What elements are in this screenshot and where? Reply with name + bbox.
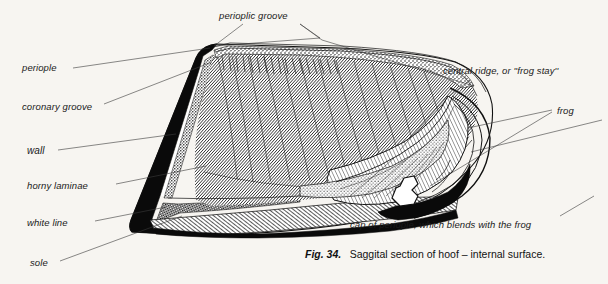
label-frog: frog [557, 105, 574, 116]
hoof-sagittal-section-figure: perioplic groove periople coronary groov… [0, 0, 608, 284]
label-perioplic-groove: perioplic groove [218, 10, 288, 21]
label-horny-laminae: horny laminae [27, 180, 88, 191]
label-sole: sole [30, 257, 48, 268]
label-white-line: white line [27, 217, 68, 228]
label-central-ridge: central ridge, or ''frog stay'' [443, 65, 560, 76]
label-cap-of-periople: cap of periople, which blends with the f… [350, 219, 532, 230]
label-periople: periople [21, 62, 57, 73]
caption-figure-number: Fig. 34. [305, 248, 341, 260]
label-coronary-groove: coronary groove [22, 101, 92, 112]
caption-text: Saggital section of hoof – internal surf… [350, 248, 546, 260]
label-wall: wall [27, 145, 45, 156]
